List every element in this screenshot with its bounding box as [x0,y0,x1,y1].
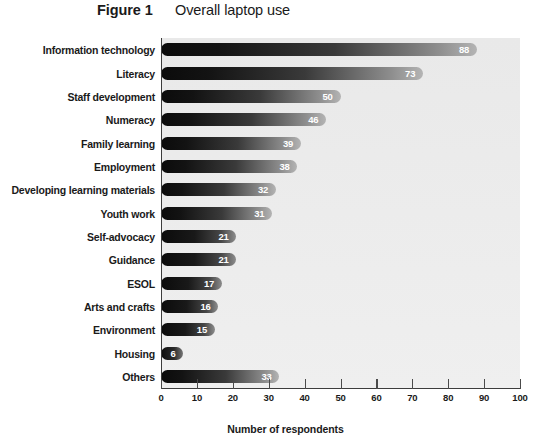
bar-value-label: 33 [261,370,271,383]
x-tick-label: 100 [512,392,527,403]
x-tick-label: 50 [335,392,345,403]
bar-row[interactable]: 50 [161,90,520,103]
bar-row[interactable]: 38 [161,160,520,173]
bar-row[interactable]: 46 [161,113,520,126]
y-axis-line [161,38,162,389]
bar-value-label: 88 [459,43,469,56]
bar-row[interactable]: 88 [161,43,520,56]
category-label: Employment [0,161,155,173]
bar-row[interactable]: 16 [161,300,520,313]
x-tick-label: 40 [300,392,310,403]
category-label: Youth work [0,208,155,220]
category-label: Environment [0,324,155,336]
bar-row[interactable]: 15 [161,323,520,336]
x-tick-mark [520,379,521,389]
bar-chart: Information technologyLiteracyStaff deve… [0,0,547,442]
category-label: Housing [0,348,155,360]
category-label: Developing learning materials [0,184,155,196]
bar-row[interactable]: 6 [161,347,520,360]
bar-row[interactable]: 32 [161,183,520,196]
category-label: Self-advocacy [0,231,155,243]
category-label: Numeracy [0,114,155,126]
x-tick-label: 30 [264,392,274,403]
category-label: ESOL [0,278,155,290]
bar-value-label: 32 [258,183,268,196]
x-tick-mark [484,379,485,389]
x-axis-title-text: Number of respondents [227,423,343,435]
x-tick-mark [448,379,449,389]
category-label: Information technology [0,44,155,56]
x-tick-mark [269,379,270,389]
bar-row[interactable]: 21 [161,230,520,243]
bar[interactable] [161,137,301,150]
bar-series: 88735046393832312121171615633 [161,38,520,388]
bar-row[interactable]: 21 [161,253,520,266]
bar[interactable] [161,43,477,56]
x-tick-mark [161,379,162,389]
category-label: Staff development [0,91,155,103]
x-tick-mark [341,379,342,389]
bar-value-label: 21 [218,253,228,266]
x-tick-label: 80 [443,392,453,403]
bar[interactable] [161,113,326,126]
x-tick-mark [305,379,306,389]
bar-value-label: 73 [405,67,415,80]
bar-value-label: 46 [308,113,318,126]
x-tick-label: 60 [371,392,381,403]
bar-value-label: 39 [283,137,293,150]
x-axis-title: Number of respondents [0,423,547,435]
bar-row[interactable]: 73 [161,67,520,80]
category-label: Arts and crafts [0,301,155,313]
bar-value-label: 16 [200,300,210,313]
bar-value-label: 15 [197,323,207,336]
x-tick-mark [197,379,198,389]
bar-row[interactable]: 31 [161,207,520,220]
category-label: Others [0,371,155,383]
x-tick-mark [412,379,413,389]
x-tick-label: 0 [158,392,163,403]
bar-value-label: 50 [323,90,333,103]
bar[interactable] [161,90,341,103]
bar-value-label: 21 [218,230,228,243]
bar[interactable] [161,67,423,80]
bar-value-label: 17 [204,277,214,290]
bar-row[interactable]: 17 [161,277,520,290]
category-axis-labels: Information technologyLiteracyStaff deve… [0,38,155,388]
x-tick-label: 70 [407,392,417,403]
x-tick-mark [233,379,234,389]
bar-value-label: 31 [254,207,264,220]
x-tick-label: 10 [192,392,202,403]
x-tick-label: 90 [479,392,489,403]
category-label: Family learning [0,138,155,150]
x-tick-label: 20 [228,392,238,403]
bar-value-label: 38 [279,160,289,173]
bar[interactable] [161,160,297,173]
bar-value-label: 6 [171,347,176,360]
category-label: Guidance [0,254,155,266]
bar-row[interactable]: 39 [161,137,520,150]
x-tick-mark [376,379,377,389]
category-label: Literacy [0,68,155,80]
